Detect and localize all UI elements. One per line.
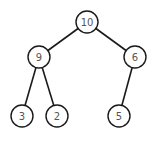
node-label: 6 bbox=[132, 52, 138, 63]
edges bbox=[22, 22, 135, 116]
node-label: 10 bbox=[81, 17, 94, 28]
node-label: 5 bbox=[116, 111, 122, 122]
heap-tree-diagram: 10 9 6 3 2 5 bbox=[0, 0, 157, 143]
node-10: 10 bbox=[76, 11, 98, 33]
node-3: 3 bbox=[11, 105, 33, 127]
node-label: 3 bbox=[19, 111, 25, 122]
node-9: 9 bbox=[28, 46, 50, 68]
node-label: 9 bbox=[36, 52, 42, 63]
node-6: 6 bbox=[124, 46, 146, 68]
node-5: 5 bbox=[108, 105, 130, 127]
node-2: 2 bbox=[46, 105, 68, 127]
node-label: 2 bbox=[54, 111, 60, 122]
